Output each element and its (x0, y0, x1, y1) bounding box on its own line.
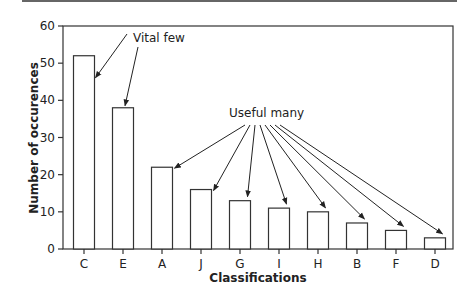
x-tick-label: J (198, 257, 203, 271)
bar-F (386, 230, 407, 249)
x-tick-label: G (235, 257, 244, 271)
x-tick-label: H (313, 257, 322, 271)
x-tick-label: A (158, 257, 167, 271)
x-tick-label: F (393, 257, 400, 271)
annotation-vital-few: Vital few (133, 31, 185, 45)
x-tick-label: B (353, 257, 361, 271)
y-axis: 0102030405060 (40, 19, 63, 256)
bar-E (113, 108, 134, 249)
y-tick-label: 60 (40, 19, 55, 33)
bar-C (74, 56, 95, 249)
bar-A (152, 167, 173, 249)
x-tick-label: D (430, 257, 439, 271)
pareto-chart: 0102030405060 CEAJGIHBFD Vital fewUseful… (0, 0, 476, 298)
annotations: Vital fewUseful many (96, 31, 443, 234)
bar-D (425, 238, 446, 249)
y-tick-label: 0 (47, 242, 55, 256)
y-tick-label: 20 (40, 168, 55, 182)
x-axis-title: Classifications (209, 271, 306, 285)
bar-G (230, 201, 251, 249)
y-axis-title: Number of occurences (27, 62, 41, 214)
y-tick-label: 30 (40, 131, 55, 145)
x-tick-label: E (119, 257, 127, 271)
y-tick-label: 50 (40, 56, 55, 70)
bar-H (308, 212, 329, 249)
bar-I (269, 208, 290, 249)
x-tick-label: C (80, 257, 88, 271)
y-tick-label: 10 (40, 205, 55, 219)
x-tick-label: I (277, 257, 281, 271)
x-axis: CEAJGIHBFD (80, 249, 440, 271)
bar-J (191, 190, 212, 249)
y-tick-label: 40 (40, 93, 55, 107)
annotation-useful-many: Useful many (229, 106, 304, 120)
bar-B (347, 223, 368, 249)
